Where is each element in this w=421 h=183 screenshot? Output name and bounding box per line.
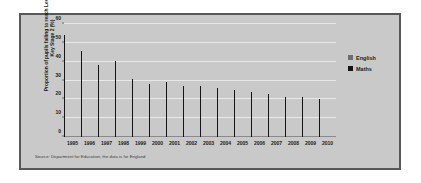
bar-group [217,24,234,137]
x-tick-label: 2008 [285,140,302,146]
y-tick-label: 30 [55,72,61,78]
chart-legend: English Maths [348,53,398,75]
chart-figure-frame: Proportion of pupils failing to reach Le… [19,13,401,170]
x-tick-label: 2009 [302,140,319,146]
x-tick-label: 1997 [98,140,115,146]
legend-label-maths: Maths [356,66,372,72]
bar-group [285,24,302,137]
y-tick-label: 50 [55,34,61,40]
y-tick-label: 10 [55,109,61,115]
bar-group [115,24,132,137]
x-tick-label: 2002 [183,140,200,146]
bar-group [200,24,217,137]
source-note: Source: Department for Education; the da… [35,154,145,159]
legend-swatch-maths-icon [348,66,353,71]
chart-canvas: Proportion of pupils failing to reach Le… [21,15,399,168]
legend-swatch-english-icon [348,55,353,60]
plot-area: 0102030405060 19951996199719981999200020… [64,24,336,137]
legend-item-maths: Maths [348,64,398,73]
x-tick-label: 2010 [319,140,336,146]
screenshot-root: Proportion of pupils failing to reach Le… [0,0,421,183]
x-tick-label: 1995 [64,140,81,146]
bar-group [319,24,336,137]
bar-group [64,24,81,137]
bar-group [234,24,251,137]
y-axis-title: Proportion of pupils failing to reach Le… [43,0,57,93]
bar-group [98,24,115,137]
y-tick-label: 0 [58,128,61,134]
legend-label-english: English [356,55,376,61]
x-tick-label: 1998 [115,140,132,146]
bar-group [302,24,319,137]
bar-group [251,24,268,137]
legend-item-english: English [348,53,398,62]
x-tick-label: 2000 [149,140,166,146]
bar-group [81,24,98,137]
x-tick-label: 2001 [166,140,183,146]
bar-group [268,24,285,137]
bar-group [166,24,183,137]
bar-group [132,24,149,137]
x-tick-label: 1999 [132,140,149,146]
bars-layer [64,24,336,137]
y-tick-label: 20 [55,90,61,96]
x-tick-label: 1996 [81,140,98,146]
x-tick-label: 2003 [200,140,217,146]
bar-group [183,24,200,137]
bar-group [149,24,166,137]
y-tick-label: 40 [55,53,61,59]
x-tick-label: 2005 [234,140,251,146]
x-tick-label: 2004 [217,140,234,146]
x-tick-label: 2006 [251,140,268,146]
y-tick-label: 60 [55,15,61,21]
x-tick-label: 2007 [268,140,285,146]
